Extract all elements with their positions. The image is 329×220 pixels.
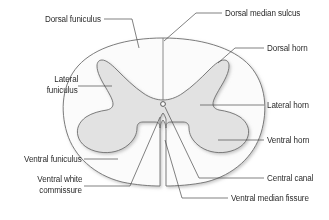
label-lateral-funiculus-line1: Lateral xyxy=(54,74,78,85)
label-dorsal-horn: Dorsal horn xyxy=(267,43,308,54)
label-dorsal-funiculus: Dorsal funiculus xyxy=(45,14,101,25)
label-central-canal: Central canal xyxy=(267,173,313,184)
label-lateral-funiculus-line2: funiculus xyxy=(47,85,78,96)
leader-dorsal-median-sulcus xyxy=(164,13,222,41)
label-ventral-white-commissure-line1: Ventral white xyxy=(37,174,82,185)
label-ventral-horn: Ventral horn xyxy=(267,135,309,146)
label-ventral-funiculus: Ventral funiculus xyxy=(24,154,82,165)
label-ventral-white-commissure-line2: commissure xyxy=(39,185,82,196)
label-dorsal-median-sulcus: Dorsal median sulcus xyxy=(225,8,300,19)
spinal-cord-diagram: Dorsal funiculus Lateral funiculus Ventr… xyxy=(0,0,329,220)
label-lateral-horn: Lateral horn xyxy=(267,100,309,111)
label-ventral-median-fissure: Ventral median fissure xyxy=(231,193,309,204)
central-canal-marker xyxy=(161,102,166,107)
